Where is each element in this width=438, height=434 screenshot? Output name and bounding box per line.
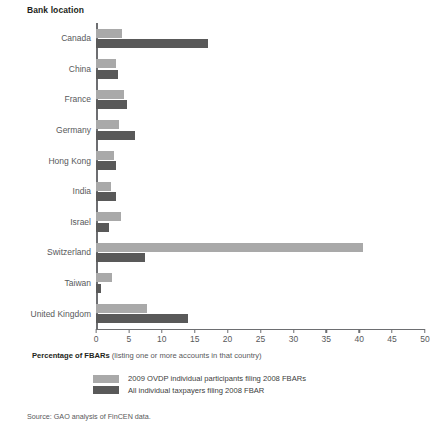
category-label: Switzerland	[47, 247, 91, 257]
bar-all-taxpayers	[96, 100, 127, 109]
bar-ovdp	[96, 29, 122, 38]
bar-group: United Kingdom	[96, 298, 425, 329]
legend-item: All individual taxpayers filing 2008 FBA…	[93, 386, 306, 395]
category-axis-title: Bank location	[27, 5, 84, 15]
bar-group: France	[96, 84, 425, 115]
value-axis-tick: 5	[127, 329, 132, 344]
bar-ovdp	[96, 212, 121, 221]
category-label: Israel	[70, 217, 91, 227]
tick-mark	[227, 329, 228, 333]
bar-group: Canada	[96, 23, 425, 54]
category-label: Hong Kong	[48, 156, 91, 166]
tick-label: 5	[127, 334, 132, 344]
tick-mark	[424, 329, 425, 333]
bar-all-taxpayers	[96, 70, 118, 79]
value-axis-label-detail: (listing one or more accounts in that co…	[110, 351, 262, 360]
bar-ovdp	[96, 304, 147, 313]
bar-rows: CanadaChinaFranceGermanyHong KongIndiaIs…	[96, 23, 425, 329]
tick-mark	[128, 329, 129, 333]
legend-swatch-dark	[93, 386, 119, 394]
bar-ovdp	[96, 120, 119, 129]
value-axis-label: Percentage of FBARs (listing one or more…	[32, 351, 262, 360]
bar-ovdp	[96, 151, 114, 160]
tick-label: 20	[223, 334, 232, 344]
value-axis-label-strong: Percentage of FBARs	[32, 351, 110, 360]
bar-group: China	[96, 54, 425, 85]
bar-all-taxpayers	[96, 314, 188, 323]
tick-mark	[194, 329, 195, 333]
bar-ovdp	[96, 182, 111, 191]
tick-label: 30	[289, 334, 298, 344]
bar-ovdp	[96, 59, 116, 68]
tick-mark	[161, 329, 162, 333]
value-axis-tick: 50	[420, 329, 429, 344]
bar-ovdp	[96, 273, 112, 282]
value-axis-tick: 15	[190, 329, 199, 344]
bar-all-taxpayers	[96, 223, 109, 232]
value-axis-tick: 35	[322, 329, 331, 344]
bar-group: Taiwan	[96, 268, 425, 299]
category-label: Taiwan	[65, 278, 91, 288]
bar-all-taxpayers	[96, 253, 145, 262]
value-axis-tick: 30	[289, 329, 298, 344]
tick-mark	[359, 329, 360, 333]
legend-label: 2009 OVDP individual participants filing…	[128, 374, 306, 383]
category-label: Germany	[56, 125, 91, 135]
bar-all-taxpayers	[96, 161, 116, 170]
category-label: China	[69, 64, 91, 74]
legend-swatch-light	[93, 375, 119, 383]
tick-label: 40	[354, 334, 363, 344]
bar-group: Hong Kong	[96, 145, 425, 176]
tick-mark	[95, 329, 96, 333]
tick-mark	[260, 329, 261, 333]
tick-label: 10	[157, 334, 166, 344]
value-axis-tick: 25	[256, 329, 265, 344]
tick-label: 0	[94, 334, 99, 344]
legend-label: All individual taxpayers filing 2008 FBA…	[128, 386, 264, 395]
value-axis-tick: 45	[387, 329, 396, 344]
category-label: United Kingdom	[31, 309, 91, 319]
value-axis-tick: 0	[94, 329, 99, 344]
bar-group: Israel	[96, 207, 425, 238]
bar-ovdp	[96, 90, 124, 99]
bar-group: Germany	[96, 115, 425, 146]
bar-all-taxpayers	[96, 192, 116, 201]
bar-group: Switzerland	[96, 237, 425, 268]
bar-all-taxpayers	[96, 284, 101, 293]
tick-label: 15	[190, 334, 199, 344]
tick-label: 45	[387, 334, 396, 344]
tick-label: 50	[420, 334, 429, 344]
source-note: Source: GAO analysis of FinCEN data.	[27, 412, 151, 421]
value-axis-tick: 10	[157, 329, 166, 344]
tick-mark	[293, 329, 294, 333]
bar-all-taxpayers	[96, 39, 208, 48]
plot-area: CanadaChinaFranceGermanyHong KongIndiaIs…	[96, 23, 425, 329]
tick-label: 35	[322, 334, 331, 344]
tick-mark	[326, 329, 327, 333]
category-label: India	[73, 186, 91, 196]
bar-ovdp	[96, 243, 363, 252]
category-label: Canada	[61, 33, 91, 43]
tick-label: 25	[256, 334, 265, 344]
bar-all-taxpayers	[96, 131, 135, 140]
tick-mark	[392, 329, 393, 333]
category-label: France	[65, 94, 91, 104]
bar-group: India	[96, 176, 425, 207]
value-axis-ticks: 05101520253035404550	[96, 329, 425, 347]
value-axis-tick: 20	[223, 329, 232, 344]
bank-location-bar-chart: Bank location CanadaChinaFranceGermanyHo…	[0, 0, 438, 434]
value-axis-tick: 40	[354, 329, 363, 344]
legend-item: 2009 OVDP individual participants filing…	[93, 374, 306, 383]
chart-legend: 2009 OVDP individual participants filing…	[93, 374, 306, 397]
